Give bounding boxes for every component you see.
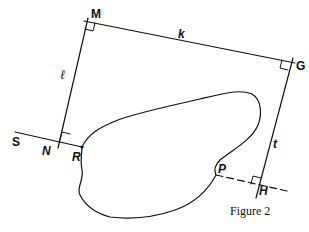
point-r-dot xyxy=(80,145,83,148)
label-h: H xyxy=(259,185,268,197)
irregular-region xyxy=(79,92,261,218)
label-ell: ℓ xyxy=(60,68,65,81)
right-angle-n xyxy=(60,132,70,140)
label-m: M xyxy=(91,8,101,20)
label-r: R xyxy=(72,151,81,163)
line-t xyxy=(256,58,293,198)
label-p: P xyxy=(218,163,226,175)
label-g: G xyxy=(296,60,305,72)
label-k: k xyxy=(178,28,185,40)
label-s: S xyxy=(12,136,20,148)
line-ell xyxy=(58,18,88,148)
label-t: t xyxy=(273,138,277,150)
label-n: N xyxy=(42,145,51,157)
figure-canvas: M G k ℓ S N R P H t Figure 2 xyxy=(0,0,309,232)
figure-caption: Figure 2 xyxy=(230,205,270,217)
line-k xyxy=(84,21,295,63)
